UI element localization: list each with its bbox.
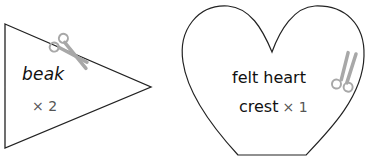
beak-outline	[5, 24, 151, 148]
heart-label-line2: crest× 1	[239, 97, 308, 116]
heart-label-line1: felt heart	[232, 68, 306, 87]
beak-quantity: × 2	[32, 98, 57, 114]
heart-quantity: × 1	[282, 99, 307, 115]
heart-label-crest: crest	[239, 97, 278, 116]
beak-label: beak	[22, 64, 64, 84]
scissors-icon	[331, 51, 358, 93]
